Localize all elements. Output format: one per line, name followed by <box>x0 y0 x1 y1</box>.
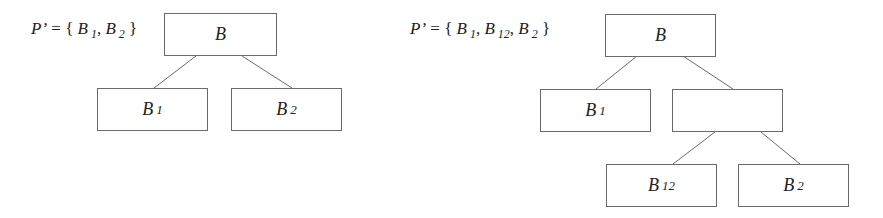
partition-label-left: P’ = { B1, B2 } <box>31 20 137 40</box>
partition-close: } <box>538 19 550 38</box>
partition-item: B <box>105 19 115 38</box>
partition-prefix: P’ <box>410 19 426 38</box>
partition-item: B <box>518 19 528 38</box>
node-root-left: B <box>164 13 277 56</box>
partition-label-right: P’ = { B1, B12, B2 } <box>410 20 550 40</box>
edge-mid-b2 <box>761 132 800 164</box>
node-intermediate-right <box>672 89 783 132</box>
node-b12-right: B12 <box>606 164 717 207</box>
node-label-sub: 1 <box>156 102 163 118</box>
node-label: B <box>215 24 226 45</box>
edge-root-b1-right <box>596 56 637 89</box>
node-label-sub: 1 <box>599 103 606 119</box>
partition-equals: = { <box>47 19 78 38</box>
partition-equals: = { <box>426 19 457 38</box>
node-label-sub: 2 <box>797 178 804 194</box>
node-label-sub: 2 <box>290 102 297 118</box>
edge-root-mid-right <box>683 56 733 89</box>
partition-item: B <box>457 19 467 38</box>
node-b1-left: B1 <box>97 88 208 131</box>
node-label: B <box>783 175 794 196</box>
edge-mid-b12 <box>673 132 715 164</box>
edge-root-b1-left <box>154 56 196 88</box>
node-b1-right: B1 <box>540 89 651 132</box>
partition-prefix: P’ <box>31 19 47 38</box>
node-label: B <box>655 25 666 46</box>
edge-root-b2-left <box>242 56 292 88</box>
partition-item: B <box>484 19 494 38</box>
partition-item: B <box>78 19 88 38</box>
node-label: B <box>142 99 153 120</box>
node-root-right: B <box>605 14 716 57</box>
partition-close: } <box>125 19 137 38</box>
node-label: B <box>585 100 596 121</box>
node-b2-right: B2 <box>738 164 849 207</box>
partition-item-sub: 12 <box>498 27 510 41</box>
node-label-sub: 12 <box>662 178 675 194</box>
node-label: B <box>648 175 659 196</box>
node-b2-left: B2 <box>231 88 342 131</box>
node-label: B <box>276 99 287 120</box>
